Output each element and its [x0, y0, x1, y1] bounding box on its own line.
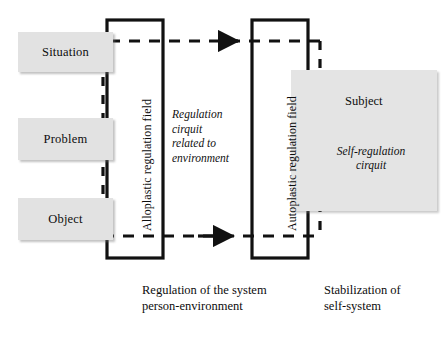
caption-right-self-system: Stabilization of self-system — [324, 282, 401, 315]
entity-box-problem[interactable]: Problem — [18, 118, 113, 160]
environment-circuit-caption: Regulation cirquit related to environmen… — [172, 107, 247, 166]
autoplastic-field-label: Autoplastic regulation field — [285, 96, 300, 231]
entity-box-object[interactable]: Object — [18, 198, 113, 240]
subject-title: Subject — [345, 94, 383, 109]
entity-label-object: Object — [48, 212, 83, 227]
entity-box-situation[interactable]: Situation — [18, 32, 113, 72]
entity-label-problem: Problem — [44, 132, 88, 147]
entity-label-situation: Situation — [42, 45, 89, 60]
diagram-canvas: Situation Problem Object Alloplastic reg… — [0, 0, 447, 337]
caption-left-system: Regulation of the system person-environm… — [142, 282, 267, 315]
alloplastic-field-label: Alloplastic regulation field — [140, 99, 155, 231]
self-regulation-caption: Self-regulation cirquit — [328, 144, 414, 173]
subject-panel[interactable] — [291, 70, 437, 211]
